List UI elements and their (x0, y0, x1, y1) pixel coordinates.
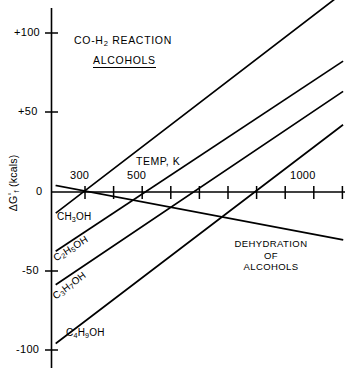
y-axis-title-subscript: f (12, 190, 21, 192)
dehydration-line-2: OF (222, 250, 320, 262)
y-axis-title-degree: ° (7, 192, 16, 195)
dehydration-line-3: ALCOHOLS (222, 261, 320, 273)
chart-subtitle: ALCOHOLS (93, 54, 156, 66)
curve-label-c4h9oh: C4H9OH (66, 327, 105, 340)
plot-area (0, 0, 356, 377)
dehydration-line-1: DEHYDRATION (222, 238, 320, 250)
chart-background (0, 0, 356, 377)
chart-title-suffix: REACTION (109, 34, 172, 46)
y-tick-label-plus100: +100 (14, 26, 40, 38)
y-tick-label-minus50: -50 (22, 264, 39, 276)
curve-label-ch3oh: CH3OH (57, 211, 91, 224)
y-axis-title-unit: (kcals) (7, 155, 19, 190)
x-tick-label-300: 300 (70, 169, 89, 181)
dehydration-annotation: DEHYDRATION OF ALCOHOLS (222, 238, 320, 273)
x-tick-label-500: 500 (127, 169, 146, 181)
y-axis-title: ΔG°f (kcals) (7, 145, 21, 221)
x-tick-label-1000: 1000 (290, 169, 316, 181)
y-tick-label-zero: 0 (36, 185, 42, 197)
chart-subtitle-text: ALCOHOLS (93, 54, 156, 68)
x-axis-title: TEMP, K (136, 155, 180, 167)
y-axis-title-text: ΔG (7, 196, 19, 212)
chart-title: CO-H2 REACTION (74, 34, 172, 48)
y-tick-label-minus100: -100 (16, 343, 39, 355)
chart-title-text: CO-H (74, 34, 104, 46)
chart-figure: +100 +50 0 -50 -100 300 500 1000 TEMP, K… (0, 0, 356, 377)
y-tick-label-plus50: +50 (18, 105, 38, 117)
